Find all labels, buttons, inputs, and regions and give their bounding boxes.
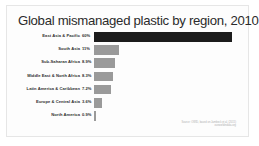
bar-category-label: East Asia & Pacific xyxy=(0,33,80,38)
bar-category-label: Europe & Central Asia xyxy=(0,99,80,104)
bar-track xyxy=(94,58,244,68)
slide-card: Global mismanaged plastic by region, 201… xyxy=(6,5,249,137)
bar-track xyxy=(94,32,244,42)
source-note: Source: OWID, based on Jambeck et al. (2… xyxy=(182,121,237,129)
bar-row: East Asia & Pacific60% xyxy=(7,32,250,43)
source-note-line-2: ourworldindata.org xyxy=(182,124,237,128)
bar-row: South Asia11% xyxy=(7,45,250,56)
bar-category-label: North America xyxy=(0,112,80,117)
bar xyxy=(94,85,111,95)
bar-chart-plot-area: East Asia & Pacific60%South Asia11%Sub-S… xyxy=(7,32,250,132)
bar xyxy=(94,72,113,82)
bar xyxy=(94,98,102,108)
bar-track xyxy=(94,85,244,95)
bar-row: Latin America & Caribbean7.2% xyxy=(7,85,250,96)
bar-track xyxy=(94,45,244,55)
bar-row: Sub-Saharan Africa8.9% xyxy=(7,58,250,69)
bar xyxy=(94,32,232,42)
bar-track xyxy=(94,72,244,82)
bar-category-label: Latin America & Caribbean xyxy=(0,86,80,91)
page-title: Global mismanaged plastic by region, 201… xyxy=(18,13,256,28)
bar xyxy=(94,45,119,55)
bar xyxy=(94,111,96,121)
bar-track xyxy=(94,98,244,108)
bar xyxy=(94,58,115,68)
bar-category-label: Middle East & North Africa xyxy=(0,73,80,78)
bar-row: Europe & Central Asia3.6% xyxy=(7,98,250,109)
bar-category-label: South Asia xyxy=(0,46,80,51)
bar-row: Middle East & North Africa8.3% xyxy=(7,72,250,83)
bar-category-label: Sub-Saharan Africa xyxy=(0,59,80,64)
